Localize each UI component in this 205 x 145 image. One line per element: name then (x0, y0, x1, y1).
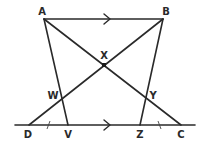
geometry-diagram: A B X W Y D V Z C (0, 0, 205, 145)
label-a: A (38, 6, 46, 17)
intersection-point-x (102, 63, 106, 67)
label-z: Z (136, 129, 143, 140)
label-v: V (64, 129, 72, 140)
label-b: B (162, 6, 170, 17)
label-d: D (24, 129, 32, 140)
label-y: Y (148, 90, 157, 101)
label-w: W (47, 90, 58, 101)
label-x: X (100, 50, 108, 61)
label-c: C (177, 129, 184, 140)
